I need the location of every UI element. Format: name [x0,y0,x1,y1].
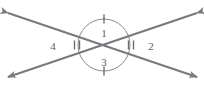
angle-label-2: 2 [148,40,154,52]
angle-label-4: 4 [50,40,56,52]
angle-label-3: 3 [101,56,107,68]
angle-label-1: 1 [101,27,107,39]
figure-canvas: 1 2 3 4 [0,0,204,88]
vertical-angles-figure: 1 2 3 4 [0,0,204,88]
